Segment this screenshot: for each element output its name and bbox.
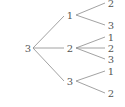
edge (76, 37, 105, 48)
edges-node-1 (76, 3, 105, 25)
level1-node: 3 (67, 76, 73, 87)
leaf-node: 1 (108, 32, 114, 43)
edges-root (33, 16, 64, 81)
edge (76, 81, 105, 93)
leaf-node: 1 (108, 66, 114, 77)
leaf-node: 3 (108, 54, 114, 65)
level1-node: 2 (67, 43, 73, 54)
edge (33, 48, 64, 81)
edge (76, 48, 105, 59)
edges-node-2 (76, 37, 105, 59)
edge (76, 71, 105, 81)
leaf-node: 2 (108, 88, 114, 99)
leaf-node: 3 (108, 20, 114, 31)
level1-node: 1 (67, 10, 73, 21)
leaf-node: 2 (108, 0, 114, 9)
tree-diagram: 3 1 2 3 2 3 1 2 3 1 2 (0, 0, 125, 107)
edge (33, 16, 64, 48)
edge (76, 15, 105, 25)
leaf-node: 2 (108, 43, 114, 54)
edges-node-3 (76, 71, 105, 93)
edge (76, 3, 105, 15)
root-node: 3 (25, 43, 31, 54)
